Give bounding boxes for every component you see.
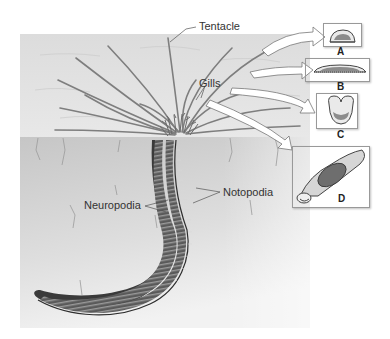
inset-c-letter: C — [337, 130, 344, 140]
inset-c — [316, 93, 358, 129]
label-tentacle: Tentacle — [199, 21, 240, 32]
inset-a-letter: A — [337, 47, 344, 57]
label-notopodia: Notopodia — [223, 187, 273, 198]
label-gills: Gills — [199, 78, 220, 89]
inset-b — [305, 58, 370, 82]
inset-d-letter: D — [338, 194, 345, 204]
inset-a — [323, 23, 362, 47]
inset-d — [292, 146, 370, 208]
inset-b-letter: B — [337, 82, 344, 92]
label-neuropodia: Neuropodia — [84, 200, 141, 211]
